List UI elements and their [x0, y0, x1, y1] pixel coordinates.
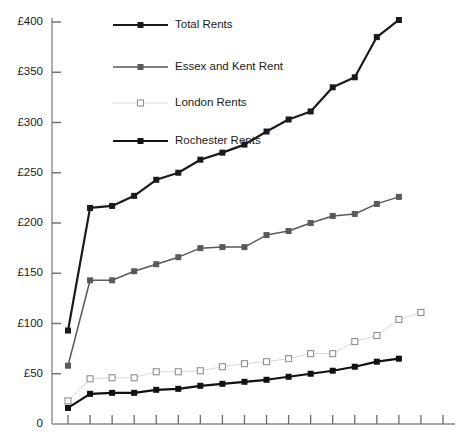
data-point-marker [219, 150, 225, 156]
legend-marker-swatch [138, 64, 144, 70]
data-point-marker [396, 17, 402, 23]
chart-container: 0£50£100£150£200£250£300£350£400 Total R… [0, 0, 468, 446]
data-point-marker [175, 254, 181, 260]
data-point-marker [65, 405, 71, 411]
data-point-marker [197, 245, 203, 251]
data-point-marker [153, 387, 159, 393]
data-point-marker [131, 375, 137, 381]
y-axis-tick-label: 0 [37, 417, 43, 429]
data-point-marker [264, 232, 270, 238]
data-point-marker [153, 177, 159, 183]
data-point-marker [109, 277, 115, 283]
data-point-marker [286, 356, 292, 362]
data-point-marker [87, 376, 93, 382]
data-point-marker [153, 261, 159, 267]
data-point-marker [330, 368, 336, 374]
legend-item-label: London Rents [175, 96, 247, 108]
y-axis-tick-label: £100 [17, 317, 43, 329]
data-point-marker [131, 390, 137, 396]
data-point-marker [352, 74, 358, 80]
data-point-marker [131, 268, 137, 274]
data-point-marker [352, 364, 358, 370]
data-point-marker [87, 205, 93, 211]
data-point-marker [330, 351, 336, 357]
data-point-marker [65, 398, 71, 404]
series-london-rents [65, 309, 424, 403]
data-point-marker [131, 193, 137, 199]
data-point-marker [219, 381, 225, 387]
data-point-marker [109, 375, 115, 381]
data-point-marker [241, 361, 247, 367]
data-point-marker [219, 244, 225, 250]
data-point-marker [264, 129, 270, 135]
data-point-marker [87, 277, 93, 283]
y-axis-tick-label: £350 [17, 65, 43, 77]
data-point-marker [175, 170, 181, 176]
data-point-marker [109, 390, 115, 396]
data-point-marker [241, 244, 247, 250]
data-point-marker [241, 379, 247, 385]
legend-item-total-rents: Total Rents [113, 18, 233, 30]
data-point-marker [308, 108, 314, 114]
data-point-marker [286, 374, 292, 380]
data-point-marker [374, 201, 380, 207]
y-axis-tick-labels: 0£50£100£150£200£250£300£350£400 [17, 15, 43, 429]
data-point-marker [308, 220, 314, 226]
legend-marker-swatch [138, 100, 144, 106]
series-line [68, 197, 399, 366]
data-point-marker [352, 339, 358, 345]
data-point-marker [330, 84, 336, 90]
data-point-marker [330, 213, 336, 219]
legend-item-rochester-rents: Rochester Rents [113, 134, 261, 146]
series-rochester-rents [65, 356, 402, 411]
data-point-marker [308, 351, 314, 357]
y-axis-tick-label: £200 [17, 216, 43, 228]
series-line [68, 359, 399, 408]
y-axis-tick-label: £250 [17, 166, 43, 178]
data-point-marker [308, 371, 314, 377]
data-point-marker [197, 368, 203, 374]
data-point-marker [219, 364, 225, 370]
data-point-marker [65, 328, 71, 334]
data-point-marker [264, 377, 270, 383]
data-point-marker [396, 194, 402, 200]
data-point-marker [197, 157, 203, 163]
legend-item-essex-and-kent-rent: Essex and Kent Rent [113, 60, 284, 72]
chart-legend: Total RentsEssex and Kent RentLondon Ren… [113, 18, 284, 146]
y-axis-tick-label: £50 [24, 367, 43, 379]
series-line [68, 312, 421, 400]
data-point-marker [87, 391, 93, 397]
data-series-layer [65, 17, 424, 411]
data-point-marker [396, 316, 402, 322]
data-point-marker [197, 383, 203, 389]
line-chart: 0£50£100£150£200£250£300£350£400 Total R… [0, 0, 468, 446]
data-point-marker [175, 386, 181, 392]
data-point-marker [396, 356, 402, 362]
legend-marker-swatch [138, 22, 144, 28]
y-axis-tick-label: £300 [17, 116, 43, 128]
legend-item-label: Essex and Kent Rent [175, 60, 284, 72]
data-point-marker [65, 363, 71, 369]
data-point-marker [109, 203, 115, 209]
data-point-marker [264, 359, 270, 365]
data-point-marker [352, 211, 358, 217]
legend-item-london-rents: London Rents [113, 96, 247, 108]
data-point-marker [374, 34, 380, 40]
legend-marker-swatch [138, 138, 144, 144]
data-point-marker [286, 116, 292, 122]
data-point-marker [374, 359, 380, 365]
legend-item-label: Total Rents [175, 18, 233, 30]
data-point-marker [153, 369, 159, 375]
data-point-marker [286, 228, 292, 234]
legend-item-label: Rochester Rents [175, 134, 261, 146]
data-point-marker [175, 369, 181, 375]
data-point-marker [418, 309, 424, 315]
y-axis-tick-label: £400 [17, 15, 43, 27]
y-axis-tick-label: £150 [17, 266, 43, 278]
data-point-marker [374, 333, 380, 339]
